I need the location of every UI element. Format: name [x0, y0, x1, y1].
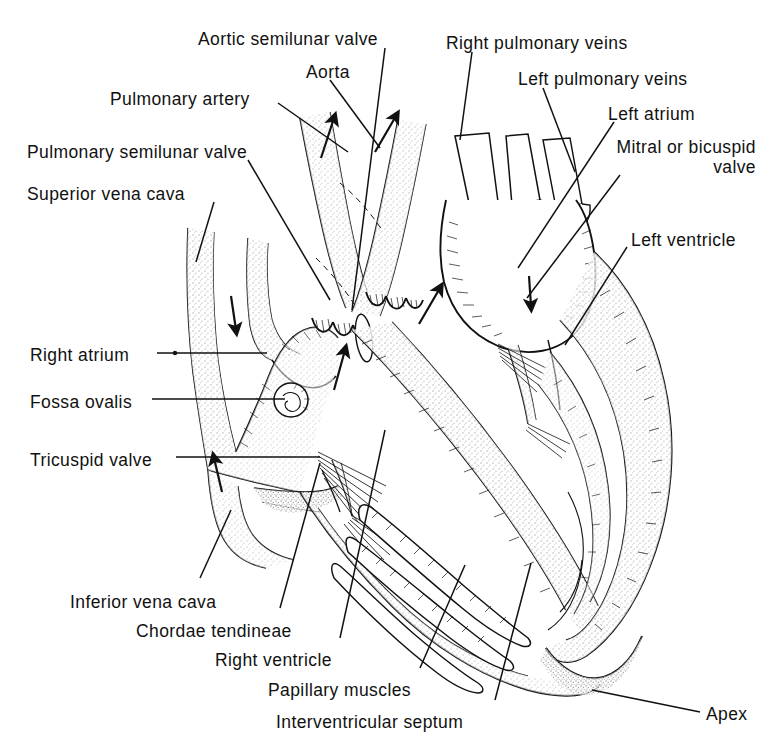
label-tricuspid-valve: Tricuspid valve	[30, 450, 152, 470]
label-mitral-or-bicuspid-valve: Mitral or bicuspid valve	[611, 137, 756, 177]
label-left-pulmonary-veins: Left pulmonary veins	[518, 69, 687, 89]
papillary-muscles-bundles	[332, 505, 531, 693]
label-fossa-ovalis: Fossa ovalis	[30, 392, 132, 412]
leader-right-pulmonary-veins	[460, 52, 472, 140]
label-left-atrium: Left atrium	[608, 104, 695, 124]
leader-apex	[592, 690, 700, 712]
arrow-lv-inflow	[419, 288, 440, 324]
interventricular-septum-wall	[352, 322, 606, 640]
label-superior-vena-cava: Superior vena cava	[27, 184, 185, 204]
label-right-atrium: Right atrium	[30, 345, 129, 365]
label-interventricular-septum: Interventricular septum	[276, 712, 463, 732]
arrow-svc-inflow	[231, 296, 236, 330]
label-right-pulmonary-veins: Right pulmonary veins	[446, 33, 628, 53]
label-aortic-semilunar-valve: Aortic semilunar valve	[198, 29, 378, 49]
label-papillary-muscles: Papillary muscles	[268, 680, 411, 700]
leader-aorta	[330, 80, 380, 148]
label-pulmonary-artery: Pulmonary artery	[110, 89, 250, 109]
heart-anatomy-figure: Aortic semilunar valve Aorta Pulmonary a…	[0, 0, 762, 753]
label-inferior-vena-cava: Inferior vena cava	[70, 592, 216, 612]
label-aorta: Aorta	[306, 62, 350, 82]
pulmonary-artery-vessel	[300, 112, 370, 308]
label-left-ventricle: Left ventricle	[631, 230, 736, 250]
leader-dot-right-atrium	[173, 351, 177, 355]
label-right-ventricle: Right ventricle	[215, 650, 332, 670]
label-pulmonary-semilunar-valve: Pulmonary semilunar valve	[27, 142, 247, 162]
label-chordae-tendineae: Chordae tendineae	[136, 621, 292, 641]
label-apex: Apex	[706, 704, 748, 724]
